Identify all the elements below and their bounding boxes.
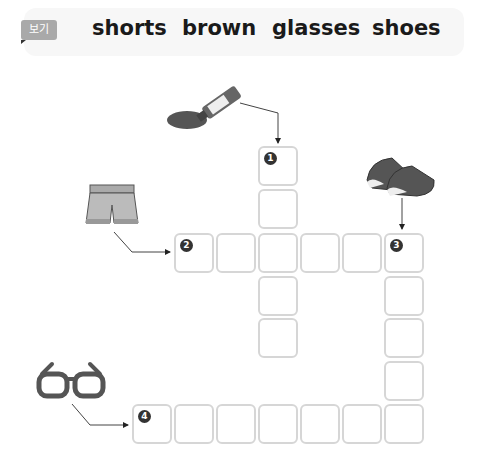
- clue-number: 1: [264, 152, 277, 165]
- cell-1-5[interactable]: [258, 318, 298, 358]
- clue-number: 3: [390, 239, 403, 252]
- cell-3-2[interactable]: [384, 276, 424, 316]
- cell-4-5[interactable]: [300, 404, 340, 444]
- cell-4-2[interactable]: [174, 404, 214, 444]
- shoes-icon: [362, 150, 442, 200]
- cell-4-1[interactable]: 4: [132, 404, 172, 444]
- cell-1-4[interactable]: [258, 276, 298, 316]
- cell-2-4[interactable]: [300, 233, 340, 273]
- cell-4-7[interactable]: [384, 404, 424, 444]
- cell-3-4[interactable]: [384, 361, 424, 401]
- cell-1-1[interactable]: 1: [258, 146, 298, 186]
- cell-2-2[interactable]: [216, 233, 256, 273]
- cell-4-4[interactable]: [258, 404, 298, 444]
- cell-2-6[interactable]: 3: [384, 233, 424, 273]
- shorts-icon: [84, 183, 140, 229]
- paint-tube-icon: [165, 82, 245, 132]
- glasses-icon: [36, 360, 106, 402]
- cell-4-3[interactable]: [216, 404, 256, 444]
- cell-3-3[interactable]: [384, 318, 424, 358]
- cell-2-5[interactable]: [342, 233, 382, 273]
- clue-number: 4: [138, 410, 151, 423]
- cell-2-3[interactable]: [258, 233, 298, 273]
- cell-2-1[interactable]: 2: [174, 233, 214, 273]
- clue-number: 2: [180, 239, 193, 252]
- cell-4-6[interactable]: [342, 404, 382, 444]
- cell-1-2[interactable]: [258, 189, 298, 229]
